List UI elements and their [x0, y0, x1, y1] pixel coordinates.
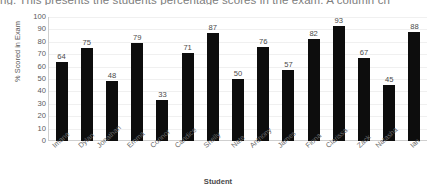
bar-slot: 82	[301, 17, 326, 141]
bar-value-label: 71	[183, 43, 191, 52]
y-tick-label: 100	[24, 13, 46, 21]
bar-slot: 45	[377, 17, 402, 141]
bar-slot: 67	[351, 17, 376, 141]
bar-slot: 50	[225, 17, 250, 141]
bar-value-label: 88	[410, 22, 418, 31]
bar-value-label: 64	[57, 52, 65, 61]
bar-value-label: 87	[209, 23, 217, 32]
bar-slot: 88	[402, 17, 427, 141]
bar[interactable]: 82	[308, 39, 320, 141]
y-axis-tick-labels: 1009080706050403020100	[24, 12, 46, 137]
y-tick-label: 70	[24, 50, 46, 58]
bar-slot: 48	[99, 17, 124, 141]
y-tick-label: 10	[24, 125, 46, 133]
y-tick-label: 60	[24, 63, 46, 71]
bar-value-label: 50	[234, 69, 242, 78]
bar-slot: 75	[74, 17, 99, 141]
bar-value-label: 93	[335, 16, 343, 25]
y-tick-label: 20	[24, 112, 46, 120]
bar[interactable]: 87	[207, 33, 219, 141]
document-header-text: ng. This presents the students percentag…	[0, 0, 436, 5]
y-tick-label: 80	[24, 38, 46, 46]
y-tick-label: 30	[24, 100, 46, 108]
bar-chart: % Scored in Exam 1009080706050403020100 …	[0, 9, 436, 189]
bar-value-label: 75	[83, 38, 91, 47]
bar-value-label: 45	[385, 75, 393, 84]
bar-slot: 87	[200, 17, 225, 141]
bar[interactable]: 79	[131, 43, 143, 141]
bar-slot: 93	[326, 17, 351, 141]
bar-slot: 33	[150, 17, 175, 141]
bar-slot: 64	[49, 17, 74, 141]
y-tick-label: 40	[24, 87, 46, 95]
bar-slot: 57	[276, 17, 301, 141]
y-tick-label: 0	[24, 137, 46, 145]
bar-slot: 79	[125, 17, 150, 141]
bar-value-label: 67	[360, 48, 368, 57]
bar[interactable]: 93	[333, 26, 345, 141]
bar-value-label: 57	[284, 60, 292, 69]
y-tick-label: 90	[24, 25, 46, 33]
bar-value-label: 33	[158, 90, 166, 99]
bar-value-label: 79	[133, 33, 141, 42]
x-axis-title: Student	[0, 177, 436, 186]
bar-value-label: 76	[259, 37, 267, 46]
bar[interactable]: 88	[408, 32, 420, 141]
bar-slot: 76	[251, 17, 276, 141]
bar-series: 647548793371875076578293674588	[49, 17, 427, 141]
y-tick-label: 50	[24, 75, 46, 83]
bar-value-label: 48	[108, 71, 116, 80]
bar-value-label: 82	[309, 29, 317, 38]
bar-slot: 71	[175, 17, 200, 141]
bar[interactable]: 67	[358, 58, 370, 141]
bar[interactable]: 75	[81, 48, 93, 141]
plot-area: 647548793371875076578293674588	[49, 17, 427, 141]
bar[interactable]: 50	[232, 79, 244, 141]
chart-figure: ng. This presents the students percentag…	[0, 0, 436, 196]
bar[interactable]: 64	[56, 62, 68, 141]
y-axis-title: % Scored in Exam	[13, 7, 22, 97]
